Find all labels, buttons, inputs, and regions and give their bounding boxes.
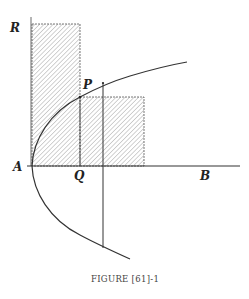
label-P: P (82, 78, 93, 92)
label-A: A (12, 160, 22, 174)
label-Q: Q (74, 169, 85, 183)
figure-diagram: R P A Q B FIGURE [61]-1 (0, 0, 249, 299)
rectangle-QP (80, 97, 144, 166)
point-P-marker (79, 96, 82, 99)
label-B: B (199, 169, 210, 183)
label-R: R (9, 21, 20, 35)
figure-caption: FIGURE [61]-1 (91, 274, 159, 284)
rectangle-AR (32, 24, 80, 166)
point-chord-top-marker (102, 82, 104, 84)
